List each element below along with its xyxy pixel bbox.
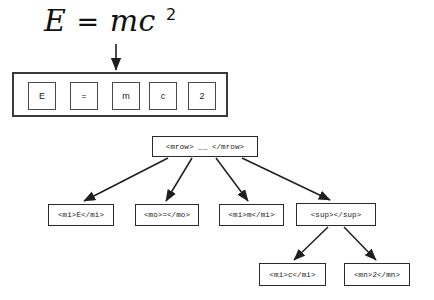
arrow-sup-to-mi-c xyxy=(294,227,328,260)
formula-lhs: E xyxy=(44,3,66,38)
tree-node-mo-eq: <mo>=</mo> xyxy=(135,204,199,226)
arrow-root-to-mo-eq xyxy=(166,158,192,201)
formula-operator: = xyxy=(76,6,99,37)
token-box-2: 2 xyxy=(188,82,216,110)
token-box-eq: = xyxy=(70,82,98,110)
formula-exponent: 2 xyxy=(166,5,177,24)
token-box-m: m xyxy=(112,82,140,110)
tree-node-mi-m: <mi>m</mi> xyxy=(219,204,284,226)
token-strip: E = m c 2 xyxy=(12,72,228,117)
tree-node-mrow: <mrow> __ </mrow> xyxy=(152,136,258,157)
arrow-root-to-sup xyxy=(242,158,330,200)
diagram-canvas: E = mc 2 E = m c 2 <mrow> __ </mrow> <mi… xyxy=(0,0,434,300)
token-box-e: E xyxy=(28,82,56,110)
tree-node-sup: <sup></sup> xyxy=(296,203,376,226)
tree-node-mi-c: <mi>c</mi> xyxy=(259,263,326,286)
arrow-root-to-mi-e xyxy=(84,158,168,201)
arrow-sup-to-mn-2 xyxy=(344,227,376,260)
formula-base: mc xyxy=(110,3,156,38)
tree-node-mn-2: <mn>2</mn> xyxy=(344,263,410,286)
token-box-c: c xyxy=(149,82,177,110)
source-formula: E = mc 2 xyxy=(44,6,177,36)
tree-node-mi-e: <mi>E</mi> xyxy=(48,204,114,226)
arrow-root-to-mi-m xyxy=(216,158,248,201)
